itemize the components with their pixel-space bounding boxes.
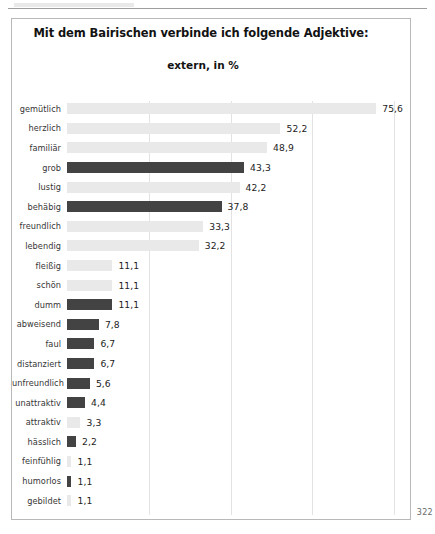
bar-value-label: 32,2 xyxy=(205,240,226,251)
bar-row: grob43,3 xyxy=(12,158,410,178)
scan-artifact-smudge xyxy=(14,3,134,7)
bar-track: 37,8 xyxy=(67,197,410,217)
bar-category-label: schön xyxy=(12,280,67,290)
bar xyxy=(67,436,76,447)
bar xyxy=(67,103,376,114)
bar-category-label: familiär xyxy=(12,143,67,153)
bar-rows: gemütlich75,6herzlich52,2familiär48,9gro… xyxy=(12,99,410,510)
bar-value-label: 48,9 xyxy=(273,142,294,153)
bar-track: 75,6 xyxy=(67,99,410,119)
bar-row: dumm11,1 xyxy=(12,295,410,315)
bar-category-label: faul xyxy=(12,339,67,349)
bar-track: 6,7 xyxy=(67,354,410,374)
bar-row: familiär48,9 xyxy=(12,138,410,158)
bar-track: 1,1 xyxy=(67,452,410,472)
bar-track: 42,2 xyxy=(67,177,410,197)
bar-category-label: herzlich xyxy=(12,123,67,133)
bar xyxy=(67,319,99,330)
chart-subtitle: extern, in % xyxy=(22,59,398,71)
bar-value-label: 75,6 xyxy=(382,103,403,114)
bar-category-label: lebendig xyxy=(12,241,67,251)
bar-chart-plot: gemütlich75,6herzlich52,2familiär48,9gro… xyxy=(12,99,410,519)
bar-row: fleißig11,1 xyxy=(12,256,410,276)
bar-track: 43,3 xyxy=(67,158,410,178)
bar xyxy=(67,476,71,487)
bar-track: 11,1 xyxy=(67,256,410,276)
bar-row: gemütlich75,6 xyxy=(12,99,410,119)
bar-value-label: 37,8 xyxy=(228,201,249,212)
bar-value-label: 6,7 xyxy=(100,358,115,369)
bar-track: 11,1 xyxy=(67,275,410,295)
bar xyxy=(67,182,240,193)
bar xyxy=(67,495,71,506)
bar-category-label: distanziert xyxy=(12,359,67,369)
bar-value-label: 11,1 xyxy=(118,260,139,271)
bar-track: 52,2 xyxy=(67,119,410,139)
chart-title-block: Mit dem Bairischen verbinde ich folgende… xyxy=(12,19,410,71)
bar xyxy=(67,378,90,389)
bar-category-label: behäbig xyxy=(12,202,67,212)
bar-row: unattraktiv4,4 xyxy=(12,393,410,413)
bar-category-label: gemütlich xyxy=(12,104,67,114)
bar-row: gebildet1,1 xyxy=(12,491,410,511)
bar-value-label: 1,1 xyxy=(77,456,92,467)
bar xyxy=(67,201,222,212)
bar-track: 7,8 xyxy=(67,315,410,335)
bar-track: 32,2 xyxy=(67,236,410,256)
bar xyxy=(67,417,80,428)
bar-row: abweisend7,8 xyxy=(12,315,410,335)
page-title: Mit dem Bairischen verbinde ich folgende… xyxy=(22,26,398,41)
bar-track: 1,1 xyxy=(67,491,410,511)
bar xyxy=(67,142,267,153)
bar-value-label: 1,1 xyxy=(77,495,92,506)
bar-track: 6,7 xyxy=(67,334,410,354)
bar-row: faul6,7 xyxy=(12,334,410,354)
bar xyxy=(67,162,244,173)
bar-category-label: hässlich xyxy=(12,437,67,447)
bar-row: herzlich52,2 xyxy=(12,119,410,139)
bar-value-label: 52,2 xyxy=(286,123,307,134)
bar-category-label: abweisend xyxy=(12,319,67,329)
bar-row: feinfühlig1,1 xyxy=(12,452,410,472)
bar-track: 11,1 xyxy=(67,295,410,315)
bar-category-label: grob xyxy=(12,163,67,173)
bar-value-label: 4,4 xyxy=(91,397,106,408)
bar-track: 2,2 xyxy=(67,432,410,452)
bar-category-label: feinfühlig xyxy=(12,456,67,466)
bar xyxy=(67,397,85,408)
bar-track: 5,6 xyxy=(67,373,410,393)
bar-row: behäbig37,8 xyxy=(12,197,410,217)
bar xyxy=(67,299,112,310)
bar xyxy=(67,123,280,134)
bar-category-label: unattraktiv xyxy=(12,398,67,408)
bar-value-label: 42,2 xyxy=(246,182,267,193)
bar-value-label: 33,3 xyxy=(209,221,230,232)
bar xyxy=(67,358,94,369)
bar-row: lebendig32,2 xyxy=(12,236,410,256)
bar xyxy=(67,240,199,251)
bar-row: hässlich2,2 xyxy=(12,432,410,452)
bar-row: unfreundlich5,6 xyxy=(12,373,410,393)
bar-value-label: 1,1 xyxy=(77,476,92,487)
bar-category-label: fleißig xyxy=(12,261,67,271)
bar xyxy=(67,221,203,232)
bar-track: 4,4 xyxy=(67,393,410,413)
bar xyxy=(67,456,71,467)
bar-track: 48,9 xyxy=(67,138,410,158)
bar-row: distanziert6,7 xyxy=(12,354,410,374)
bar-row: attraktiv3,3 xyxy=(12,413,410,433)
bar-row: freundlich33,3 xyxy=(12,217,410,237)
bar-category-label: unfreundlich xyxy=(12,378,67,388)
bar-category-label: humorlos xyxy=(12,476,67,486)
bar-category-label: lustig xyxy=(12,182,67,192)
bar-value-label: 11,1 xyxy=(118,299,139,310)
bar-track: 1,1 xyxy=(67,471,410,491)
bar-track: 33,3 xyxy=(67,217,410,237)
chart-frame: Mit dem Bairischen verbinde ich folgende… xyxy=(11,18,411,520)
bar-value-label: 7,8 xyxy=(105,319,120,330)
bar-category-label: dumm xyxy=(12,300,67,310)
bar-value-label: 5,6 xyxy=(96,378,111,389)
scan-artifact-rule xyxy=(8,8,427,9)
bar-value-label: 6,7 xyxy=(100,338,115,349)
bar-category-label: gebildet xyxy=(12,496,67,506)
